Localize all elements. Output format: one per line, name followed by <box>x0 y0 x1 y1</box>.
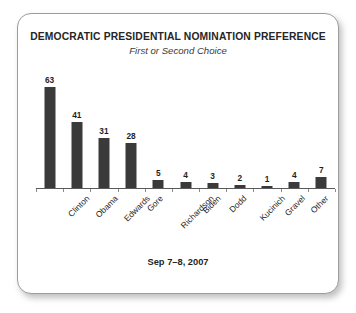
bar-value-label: 31 <box>99 126 108 136</box>
bar-value-label: 7 <box>319 165 324 175</box>
axis-tick <box>335 189 336 192</box>
category-label: Obama <box>94 194 120 220</box>
bar-value-label: 5 <box>156 168 161 178</box>
x-axis-line <box>36 188 335 189</box>
bar-slot: 4 <box>281 76 307 188</box>
bar[interactable] <box>316 177 327 188</box>
category-label: Clinton <box>66 194 91 219</box>
bar-slot: 41 <box>64 76 90 188</box>
plot-area: 634131285432147 <box>36 76 326 188</box>
category-label: Other <box>309 194 330 215</box>
bar-value-label: 3 <box>210 171 215 181</box>
bar-value-label: 63 <box>45 75 54 85</box>
bar-slot: 31 <box>91 76 117 188</box>
category-label: Dodd <box>228 194 249 215</box>
category-label: Gravel <box>283 194 307 218</box>
page-title: DEMOCRATIC PRESIDENTIAL NOMINATION PREFE… <box>18 31 338 42</box>
bar-slot: 5 <box>145 76 171 188</box>
bar[interactable] <box>71 122 82 188</box>
bar-value-label: 28 <box>127 131 136 141</box>
bar-slot: 3 <box>200 76 226 188</box>
bar[interactable] <box>126 143 137 188</box>
bar-value-label: 1 <box>265 174 270 184</box>
bar-value-label: 2 <box>238 173 243 183</box>
chart-card: DEMOCRATIC PRESIDENTIAL NOMINATION PREFE… <box>17 13 339 294</box>
bar[interactable] <box>98 138 109 188</box>
bar-slot: 2 <box>227 76 253 188</box>
bar-slot: 1 <box>254 76 280 188</box>
bar[interactable] <box>153 180 164 188</box>
chart-subtitle: First or Second Choice <box>18 45 338 56</box>
bar[interactable] <box>44 87 55 188</box>
bar-slot: 28 <box>118 76 144 188</box>
bar-value-label: 41 <box>72 110 81 120</box>
title-block: DEMOCRATIC PRESIDENTIAL NOMINATION PREFE… <box>18 31 338 56</box>
bar-value-label: 4 <box>292 170 297 180</box>
bar-slot: 63 <box>37 76 63 188</box>
x-axis-category-labels: ClintonObamaEdwardsGoreRichardsonBidenDo… <box>36 192 335 262</box>
bar-value-label: 4 <box>183 170 188 180</box>
chart-footnote: Sep 7–8, 2007 <box>18 257 338 267</box>
bar-slot: 7 <box>308 76 334 188</box>
bar-slot: 4 <box>173 76 199 188</box>
